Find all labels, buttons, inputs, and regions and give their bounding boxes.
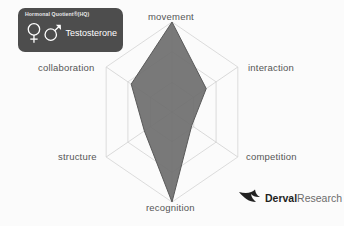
axis-label-recognition: recognition xyxy=(146,203,195,213)
legend-hormone-label: Testosterone xyxy=(65,29,117,38)
data-polygon-testosterone xyxy=(131,22,206,202)
female-symbol-icon xyxy=(25,19,43,47)
axis-label-collaboration: collaboration xyxy=(38,63,94,73)
legend-row: Testosterone xyxy=(25,18,117,48)
brand-name-bold: Derval xyxy=(265,192,297,204)
male-symbol-icon xyxy=(43,20,63,46)
axis-label-interaction: interaction xyxy=(248,63,294,73)
brand-logo: DervalResearch xyxy=(238,188,342,208)
axis-label-movement: movement xyxy=(148,12,194,22)
bird-swoosh-icon xyxy=(238,188,264,208)
legend-badge: Hormonal Quotient®(HQ) Testosterone xyxy=(18,8,123,52)
legend-title: Hormonal Quotient®(HQ) xyxy=(25,12,117,17)
brand-text: DervalResearch xyxy=(265,193,342,204)
brand-name-light: Research xyxy=(297,192,342,204)
axis-label-competition: competition xyxy=(246,152,297,162)
axis-label-structure: structure xyxy=(58,152,97,162)
